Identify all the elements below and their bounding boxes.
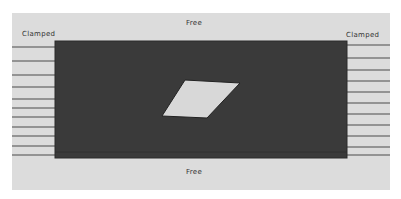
left-clamp-lines: [12, 47, 55, 155]
left-edge-label: Clamped: [22, 30, 55, 38]
bottom-edge-label: Free: [186, 168, 202, 176]
top-edge-label: Free: [186, 19, 202, 27]
right-clamp-lines: [347, 45, 390, 155]
right-edge-label: Clamped: [346, 31, 379, 39]
